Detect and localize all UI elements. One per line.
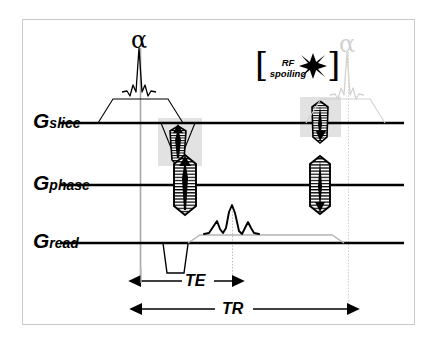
rf-spoiling-label: RF spoiling [266, 57, 310, 79]
figure-root: Gslice Gphase Gread α α [ RF spoiling ] … [0, 0, 441, 342]
pulse-sequence-canvas [0, 0, 441, 342]
axis-label-gslice-sub: slice [49, 115, 80, 131]
alpha-label-2: α [339, 30, 355, 58]
axis-label-gread-sub: read [49, 235, 79, 251]
te-label: TE [185, 272, 205, 290]
rf-sinc-pulse-1 [122, 48, 156, 96]
gphase-rewinder-lobe [310, 156, 330, 214]
gread-prephase-lobe [163, 243, 188, 273]
rf-spoiling-bracket-close: ] [327, 47, 340, 81]
axis-label-gslice-main: G [33, 109, 49, 132]
rf-spoiling-line2: spoiling [266, 68, 310, 79]
gradient-echo-signal [204, 205, 259, 234]
tr-label: TR [222, 300, 243, 318]
axis-label-gphase-sub: phase [49, 177, 89, 193]
gphase-encode-lobe [174, 155, 196, 215]
axis-label-gphase: Gphase [33, 172, 90, 193]
gslice-spoiler-lobe-2 [312, 101, 328, 143]
axis-label-gslice: Gslice [33, 110, 80, 131]
axis-label-gread: Gread [33, 230, 79, 251]
alpha-label-1: α [131, 26, 147, 54]
axis-label-gphase-main: G [33, 171, 49, 194]
axis-label-gread-main: G [33, 229, 49, 252]
rf-spoiling-line1: RF [266, 57, 310, 68]
